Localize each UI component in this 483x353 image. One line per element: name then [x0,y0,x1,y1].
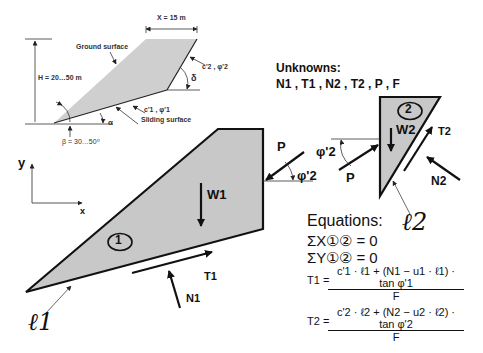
overview-height-label: H = 20…50 m [38,74,82,81]
block-2 [331,97,460,214]
equation-t2-denominator: F [328,331,464,343]
equations-title: Equations: [307,212,383,230]
block-2-force-label: P [346,170,355,185]
equation-t1-numerator: c'1 · ℓ1 + (N1 − u1 · ℓ1) · tan φ'1 [328,265,464,290]
y-axis-label: y [18,155,25,170]
overview-param1-label: c'1 , φ'1 [144,106,170,113]
block-1-id: 1 [115,233,122,247]
block-1-length-label: ℓ1 [28,308,53,336]
coordinate-axes [32,164,82,203]
overview-alpha-label: α [108,118,113,127]
block-2-weight-label: W2 [396,122,416,137]
block-1-angle-label: φ'2 [297,168,317,183]
equation-t2-numerator: c'2 · ℓ2 + (N2 − u2 · ℓ2) · tan φ'2 [328,306,464,331]
block-2-angle-label: φ'2 [316,144,336,159]
block-1-shape [26,129,263,292]
equation-t1-denominator: F [328,290,464,302]
block-2-shear-label: T2 [438,125,451,137]
unknowns-title: Unknowns: [276,61,341,75]
overview-ground-surface-label: Ground surface [76,43,128,50]
block-1-shear-label: T1 [204,270,217,282]
equation-sum-x: ΣX①② = 0 [307,232,378,250]
block-1-weight-label: W1 [207,187,227,202]
equation-t2-fraction: c'2 · ℓ2 + (N2 − u2 · ℓ2) · tan φ'2 F [328,306,464,343]
overview-delta-label: δ [191,73,196,83]
block-2-normal-label: N2 [431,174,446,188]
block-2-id: 2 [405,102,412,116]
block-1-normal-label: N1 [186,292,200,304]
block-1-force-label: P [277,139,286,154]
overview-slope-mass [54,39,197,123]
block-2-length-label: ℓ2 [402,208,427,236]
overview-sliding-surface-label: Sliding surface [141,116,191,123]
block-1 [26,129,313,313]
x-axis-label: x [80,206,85,216]
unknowns-list: N1 , T1 , N2 , T2 , P , F [276,77,400,91]
equation-t2-lhs: T2 = [307,315,329,327]
overview-beta-label: β = 30…50⁰ [62,138,100,146]
overview-param2-label: c'2 , φ'2 [202,63,228,70]
equation-t1-fraction: c'1 · ℓ1 + (N1 − u1 · ℓ1) · tan φ'1 F [328,265,464,302]
overview-x-dimension: X = 15 m [157,14,186,21]
equation-t1-lhs: T1 = [307,274,329,286]
